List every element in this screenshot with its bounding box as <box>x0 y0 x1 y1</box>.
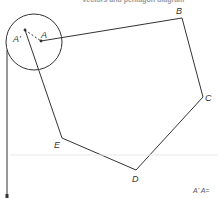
point-a-prime <box>24 29 27 32</box>
label-b: B <box>176 6 182 16</box>
label-c: C <box>205 93 212 103</box>
label-a: A <box>40 30 47 40</box>
pentagon-diagram: A' A B C D E <box>0 0 218 198</box>
vertical-line-end-mark <box>6 194 9 198</box>
pentagon-path <box>25 18 203 170</box>
cropped-equation: A' A= <box>193 187 209 194</box>
point-a <box>40 40 43 43</box>
label-a-prime: A' <box>12 34 21 44</box>
label-d: D <box>132 174 139 184</box>
label-e: E <box>54 140 61 150</box>
